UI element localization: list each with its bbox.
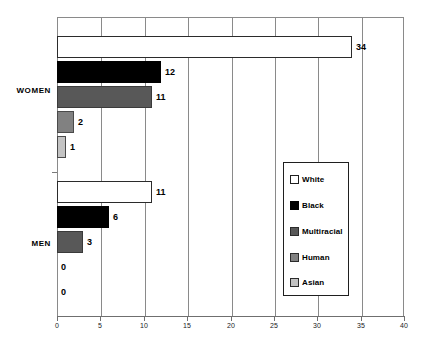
x-tick-label-30: 30: [305, 322, 329, 329]
legend-swatch-multiracial: [290, 227, 299, 236]
legend-label-multiracial: Multiracial: [302, 227, 343, 236]
legend-label-asian: Asian: [302, 278, 324, 287]
x-tick-label-15: 15: [175, 322, 199, 329]
bar-women-black: [57, 61, 161, 83]
legend-swatch-black: [290, 201, 299, 210]
x-tick-15: [187, 317, 188, 321]
x-tick-5: [100, 317, 101, 321]
x-tick-label-25: 25: [262, 322, 286, 329]
bar-value-men-asian: 0: [61, 281, 66, 303]
gridline-25: [275, 18, 276, 316]
bar-women-white: [57, 36, 352, 58]
legend-item-black[interactable]: Black: [290, 199, 324, 211]
group-separator-tick: [52, 172, 57, 173]
legend-label-black: Black: [302, 201, 324, 210]
x-tick-label-40: 40: [392, 322, 416, 329]
bar-value-men-black: 6: [113, 206, 118, 228]
x-tick-0: [57, 317, 58, 321]
x-tick-label-0: 0: [45, 322, 69, 329]
bar-value-men-human: 0: [61, 256, 66, 278]
bar-men-white: [57, 181, 152, 203]
x-tick-35: [361, 317, 362, 321]
x-tick-25: [274, 317, 275, 321]
x-tick-label-10: 10: [132, 322, 156, 329]
legend-label-human: Human: [302, 253, 330, 262]
legend-swatch-white: [290, 175, 299, 184]
gridline-15: [188, 18, 189, 316]
bar-value-women-asian: 1: [70, 136, 75, 158]
legend-swatch-human: [290, 253, 299, 262]
bar-value-men-white: 11: [156, 181, 166, 203]
legend-item-human[interactable]: Human: [290, 251, 330, 263]
bar-women-multiracial: [57, 86, 152, 108]
legend-item-asian[interactable]: Asian: [290, 276, 324, 288]
group-label-men: MEN: [0, 239, 51, 248]
x-tick-10: [144, 317, 145, 321]
legend-label-white: White: [302, 175, 324, 184]
x-tick-label-20: 20: [219, 322, 243, 329]
legend-swatch-asian: [290, 278, 299, 287]
bar-women-asian: [57, 136, 66, 158]
bar-value-women-black: 12: [165, 61, 175, 83]
group-label-women: WOMEN: [0, 86, 51, 95]
legend-item-multiracial[interactable]: Multiracial: [290, 225, 343, 237]
gridline-35: [362, 18, 363, 316]
bar-men-black: [57, 206, 109, 228]
legend-item-white[interactable]: White: [290, 173, 324, 185]
x-tick-30: [317, 317, 318, 321]
bar-men-multiracial: [57, 231, 83, 253]
bar-value-women-white: 34: [356, 36, 366, 58]
x-tick-20: [231, 317, 232, 321]
x-tick-label-5: 5: [88, 322, 112, 329]
x-tick-40: [404, 317, 405, 321]
bar-women-human: [57, 111, 74, 133]
gridline-20: [232, 18, 233, 316]
x-tick-label-35: 35: [349, 322, 373, 329]
bar-value-men-multiracial: 3: [87, 231, 92, 253]
bar-value-women-human: 2: [78, 111, 83, 133]
bar-chart: 0510152025303540 WOMENMEN 34121121116300…: [0, 0, 421, 347]
chart-legend: WhiteBlackMultiracialHumanAsian: [283, 162, 349, 296]
bar-value-women-multiracial: 11: [156, 86, 166, 108]
